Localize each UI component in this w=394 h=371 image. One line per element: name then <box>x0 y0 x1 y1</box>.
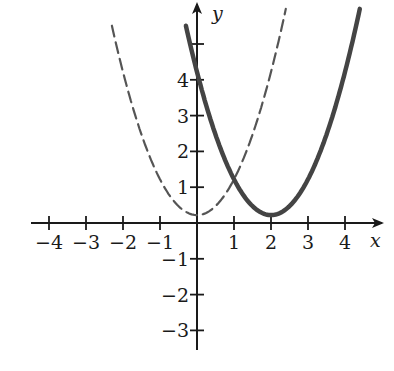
x-tick-label: −3 <box>72 231 100 253</box>
y-tick-label: 3 <box>177 105 189 127</box>
y-tick-label: 1 <box>177 176 189 198</box>
y-tick-label: 4 <box>177 69 189 91</box>
function-graph: −4−3−2−11234−3−2−11234 x y <box>0 0 394 371</box>
solid-parabola <box>186 9 360 215</box>
y-tick-label: −2 <box>161 284 189 306</box>
y-tick-label: −3 <box>161 319 189 341</box>
curves <box>112 9 360 215</box>
x-tick-label: 2 <box>265 231 277 253</box>
axes <box>31 4 382 350</box>
ticks: −4−3−2−11234−3−2−11234 <box>35 44 351 341</box>
x-tick-label: 4 <box>339 231 351 253</box>
x-tick-label: −2 <box>109 231 137 253</box>
dashed-parabola <box>112 9 286 215</box>
x-tick-label: 3 <box>302 231 314 253</box>
y-axis-label: y <box>211 2 223 24</box>
x-tick-label: −4 <box>35 231 63 253</box>
x-tick-label: 1 <box>228 231 240 253</box>
x-axis-label: x <box>370 229 381 251</box>
y-tick-label: −1 <box>161 248 189 270</box>
y-tick-label: 2 <box>177 140 189 162</box>
